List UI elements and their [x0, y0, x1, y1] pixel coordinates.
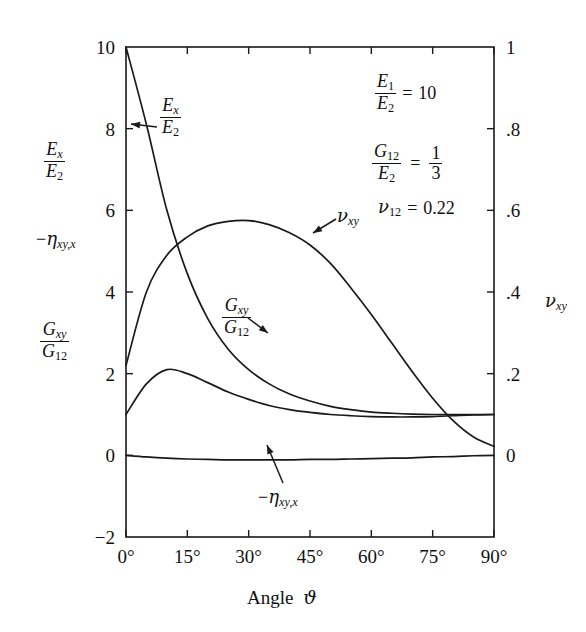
arrow-minus-eta-head: [267, 445, 274, 455]
y-tick-label-right-1: 1: [506, 37, 516, 58]
param-e1-e2: E1 E2 = 10: [375, 72, 436, 116]
numerator-gxy: Gxy: [40, 320, 69, 341]
param-e2: E2: [375, 93, 396, 115]
x-tick-label-75: 75°: [419, 546, 446, 567]
right-axis-title-nuxy: νxy: [545, 290, 567, 314]
y-tick-label-left-4: 4: [106, 282, 116, 303]
data-curves: [126, 47, 494, 460]
curve-label-gxy-g12: Gxy G12: [222, 296, 251, 340]
y-tick-label-left--2: −2: [95, 527, 115, 548]
param-nu12-symbol: ν12: [378, 196, 401, 220]
plot-canvas: 0°15°30°45°60°75°90°1086420−21.8.6.4.20: [0, 0, 586, 632]
x-tick-label-0: 0°: [117, 546, 134, 567]
curve-label-ex-e2: Ex E2: [160, 96, 181, 140]
denominator-e2: E2: [44, 161, 65, 183]
left-axis-title-ex-e2: Ex E2: [44, 140, 65, 184]
param-nu12: ν12 = 0.22: [378, 196, 455, 220]
y-tick-label-right-0p6: .6: [506, 200, 520, 221]
x-tick-label-60: 60°: [358, 546, 385, 567]
param-e1: E1: [375, 72, 396, 93]
y-tick-label-left-8: 8: [106, 119, 116, 140]
param-e2b: E2: [372, 163, 401, 185]
x-axis-title-word: Angle: [247, 587, 293, 608]
y-tick-label-right-0p4: .4: [506, 282, 521, 303]
axis-ticks: [126, 47, 494, 537]
param-e1-e2-value: 10: [418, 83, 436, 104]
x-tick-label-90: 90°: [481, 546, 508, 567]
y-tick-label-right-0p2: .2: [506, 364, 520, 385]
x-axis-title-symbol: ϑ: [303, 586, 317, 608]
curve-ExE2: [126, 47, 494, 415]
curve-label-minus-eta: −ηxy,x: [258, 486, 298, 510]
x-tick-label-15: 15°: [174, 546, 201, 567]
equals-sign-1: =: [402, 83, 412, 104]
param-g12: G12: [372, 142, 401, 163]
equals-sign-2: =: [410, 153, 420, 174]
arrow-ex-e2-head: [131, 122, 140, 129]
y-tick-label-right-0p8: .8: [506, 119, 520, 140]
curve-label-nuxy: νxy: [337, 205, 359, 229]
left-axis-title-gxy-g12: Gxy G12: [40, 320, 69, 364]
arrow-nuxy-head: [313, 225, 323, 233]
chart-figure: 0°15°30°45°60°75°90°1086420−21.8.6.4.20 …: [0, 0, 586, 632]
left-axis-title-minus-eta: −ηxy,x: [36, 228, 76, 252]
y-tick-label-left-0: 0: [106, 445, 116, 466]
x-axis-title: Angle ϑ: [247, 586, 317, 609]
axis-tick-labels: 0°15°30°45°60°75°90°1086420−21.8.6.4.20: [95, 37, 521, 567]
numerator-ex: Ex: [44, 140, 65, 161]
plot-border: [126, 47, 494, 537]
equals-sign-3: =: [407, 198, 417, 219]
param-three: 3: [429, 163, 442, 183]
x-tick-label-30: 30°: [235, 546, 262, 567]
curve-GxyG12: [126, 369, 494, 417]
y-tick-label-left-6: 6: [106, 200, 116, 221]
y-tick-label-right-0: 0: [506, 445, 516, 466]
arrow-gxy-g12-head: [259, 325, 268, 333]
y-tick-label-left-2: 2: [106, 364, 116, 385]
curve-xyx: [126, 455, 494, 460]
param-nu12-value: 0.22: [423, 198, 455, 219]
param-g12-e2: G12 E2 = 1 3: [372, 142, 442, 186]
param-one: 1: [429, 144, 442, 163]
x-tick-label-45: 45°: [297, 546, 324, 567]
y-tick-label-left-10: 10: [96, 37, 115, 58]
denominator-g12: G12: [40, 341, 69, 363]
plot-frame: [126, 47, 494, 537]
